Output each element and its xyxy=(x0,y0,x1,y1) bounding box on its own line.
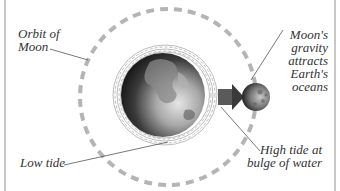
label-high-tide: High tide at bulge of water xyxy=(247,143,322,169)
label-moon-gravity-line-5: oceans xyxy=(288,80,328,93)
leader-low-tide xyxy=(64,142,168,165)
label-low-tide: Low tide xyxy=(20,156,65,169)
label-orbit-line-2: Moon xyxy=(18,40,60,53)
label-moon-gravity: Moon's gravity attracts Earth's oceans xyxy=(288,28,328,93)
gravity-arrow-icon xyxy=(218,84,244,110)
label-orbit-of-moon: Orbit of Moon xyxy=(18,27,60,53)
earth xyxy=(121,53,205,137)
moon xyxy=(242,83,270,111)
label-high-tide-line-2: bulge of water xyxy=(247,156,322,169)
leader-moon-gravity xyxy=(251,30,283,80)
